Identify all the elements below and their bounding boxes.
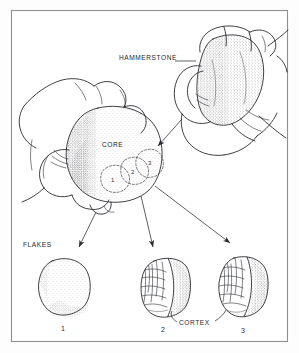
flake-2-number: 2 bbox=[161, 326, 165, 333]
flakes-label: FLAKES bbox=[23, 241, 52, 248]
cortex-label: CORTEX bbox=[179, 319, 210, 326]
core-label: CORE bbox=[102, 141, 123, 148]
flake-1-number: 1 bbox=[61, 325, 65, 332]
hammerstone-label: HAMMERSTONE bbox=[119, 54, 177, 61]
flake-3-number: 3 bbox=[241, 327, 245, 334]
figure-canvas: CORE 1 2 3 HAMMERSTONE bbox=[0, 0, 299, 353]
flintknapping-figure: CORE 1 2 3 HAMMERSTONE bbox=[0, 0, 299, 353]
